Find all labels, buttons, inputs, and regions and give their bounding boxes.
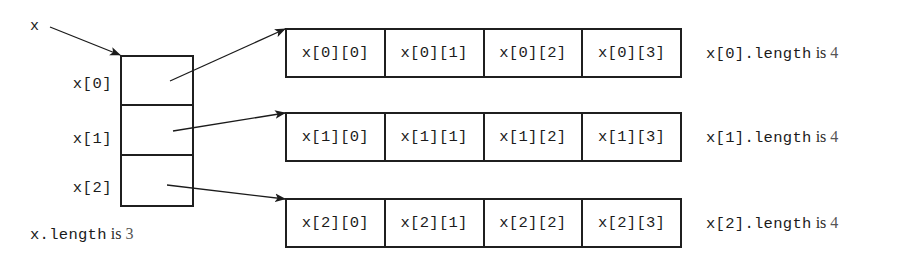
array-cell: x[2][2] bbox=[485, 200, 584, 246]
array-cell: x[1][2] bbox=[485, 114, 584, 160]
length-expression: x[1].length bbox=[706, 129, 812, 147]
array-cell: x[2][1] bbox=[386, 200, 485, 246]
length-value: 4 bbox=[830, 214, 838, 231]
length-word: is bbox=[107, 225, 126, 242]
length-word: is bbox=[812, 128, 831, 145]
outer-array-cell-0 bbox=[122, 57, 192, 106]
outer-array-cell-2 bbox=[122, 156, 192, 205]
row-array-2: x[2][0] x[2][1] x[2][2] x[2][3] bbox=[285, 198, 682, 248]
length-caption-outer-array: x.length is 3 bbox=[30, 225, 133, 244]
row-array-1: x[1][0] x[1][1] x[1][2] x[1][3] bbox=[285, 112, 682, 162]
length-word: is bbox=[812, 44, 831, 61]
array-cell: x[1][0] bbox=[287, 114, 386, 160]
array-cell: x[0][0] bbox=[287, 30, 386, 76]
length-value: 4 bbox=[830, 128, 838, 145]
array-cell: x[1][1] bbox=[386, 114, 485, 160]
array-cell: x[2][3] bbox=[583, 200, 680, 246]
length-caption-row-0: x[0].length is 4 bbox=[706, 44, 838, 63]
x-reference-arrow bbox=[50, 27, 120, 55]
outer-array-box bbox=[120, 55, 194, 207]
row-array-0: x[0][0] x[0][1] x[0][2] x[0][3] bbox=[285, 28, 682, 78]
outer-cell-label-2: x[2] bbox=[40, 179, 112, 197]
length-caption-row-1: x[1].length is 4 bbox=[706, 128, 838, 147]
array-cell: x[0][1] bbox=[386, 30, 485, 76]
length-caption-row-2: x[2].length is 4 bbox=[706, 214, 838, 233]
array-cell: x[2][0] bbox=[287, 200, 386, 246]
length-expression: x.length bbox=[30, 226, 107, 244]
pointer-label-x: x bbox=[30, 18, 40, 35]
array-cell: x[0][3] bbox=[583, 30, 680, 76]
length-expression: x[0].length bbox=[706, 45, 812, 63]
outer-array-cell-1 bbox=[122, 106, 192, 155]
outer-cell-label-1: x[1] bbox=[40, 130, 112, 148]
array-diagram: x x[0] x[1] x[2] x[0][0] x[0][1] x[0][2]… bbox=[0, 0, 922, 268]
length-word: is bbox=[812, 214, 831, 231]
array-cell: x[1][3] bbox=[583, 114, 680, 160]
outer-cell-label-0: x[0] bbox=[40, 75, 112, 93]
length-value: 4 bbox=[830, 44, 838, 61]
array-cell: x[0][2] bbox=[485, 30, 584, 76]
length-expression: x[2].length bbox=[706, 215, 812, 233]
length-value: 3 bbox=[125, 225, 133, 242]
